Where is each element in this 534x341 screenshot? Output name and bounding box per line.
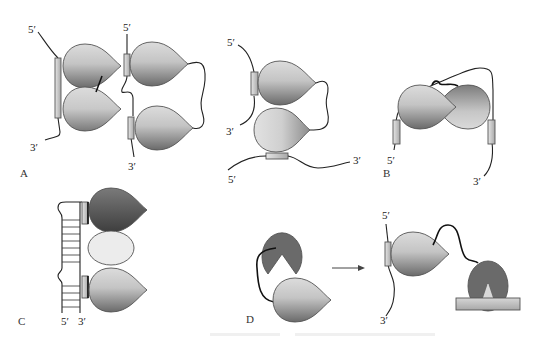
strand-5prime xyxy=(386,224,388,242)
panel-a-right-complex: 5′ 3′ 5′ 3′ xyxy=(226,36,361,185)
strand-connector xyxy=(122,76,133,116)
dna-bar xyxy=(55,58,61,118)
protein-domain-bottom xyxy=(135,106,193,150)
base-pair-rungs xyxy=(62,220,80,307)
panel-label-a: A xyxy=(20,167,28,179)
strand-5prime xyxy=(38,32,58,58)
label-3prime: 3′ xyxy=(128,160,136,172)
strand-3prime xyxy=(484,142,493,176)
protein-domain-top xyxy=(63,44,121,88)
dna-bar-bottom xyxy=(266,153,288,159)
panel-b: 5′ 3′ B xyxy=(383,68,495,187)
panel-a: 5′ 3′ 5′ 3′ xyxy=(20,21,361,185)
protein-domain-top xyxy=(258,61,316,105)
label-5prime: 5′ xyxy=(382,209,390,221)
diagram-canvas: 5′ 3′ 5′ 3′ xyxy=(0,0,534,341)
strand-5prime-side xyxy=(58,202,82,313)
panel-label-c: C xyxy=(18,315,25,327)
strand-5prime-bottom xyxy=(228,156,266,170)
panel-a-left-complex: 5′ 3′ xyxy=(28,23,121,153)
label-3prime: 3′ xyxy=(226,125,234,137)
protein-domain-bottom xyxy=(89,268,147,312)
panel-a-middle-complex: 5′ 3′ xyxy=(122,21,205,172)
panel-d: D 5′ 3′ xyxy=(246,209,520,326)
protein-domain-dark xyxy=(89,188,147,232)
label-5prime: 5′ xyxy=(61,315,69,327)
panel-d-active: 5′ 3′ xyxy=(380,209,520,326)
panel-label-b: B xyxy=(383,167,390,179)
panel-label-d: D xyxy=(246,313,254,325)
protein-domain-bottom xyxy=(63,87,121,131)
strand-5prime xyxy=(238,45,254,72)
dna-bar-left xyxy=(393,120,400,144)
dna-bar-top xyxy=(124,54,130,76)
linker-loop xyxy=(188,62,205,128)
dna-bar-bottom xyxy=(82,276,88,298)
dna-bar-bottom xyxy=(128,117,134,139)
panel-d-inactive: D xyxy=(246,233,331,325)
label-3prime: 3′ xyxy=(380,314,388,326)
label-5prime: 5′ xyxy=(227,36,235,48)
label-5prime: 5′ xyxy=(387,154,395,166)
label-3prime: 3′ xyxy=(78,315,86,327)
protein-domain-pale xyxy=(88,231,134,265)
strand-3prime xyxy=(240,96,254,125)
dna-bar xyxy=(251,72,258,95)
autoinhibitory-domain xyxy=(262,233,302,274)
substrate-surface xyxy=(456,298,520,310)
protein-domain-top xyxy=(130,42,188,86)
transition-arrow xyxy=(332,265,365,271)
strand-3prime xyxy=(386,265,394,316)
dna-bar-right xyxy=(488,120,495,144)
label-3prime: 3′ xyxy=(473,175,481,187)
protein-domain xyxy=(391,232,449,276)
dna-hairpin xyxy=(58,202,82,313)
protein-domain-bottom xyxy=(254,108,310,152)
figure-caption xyxy=(210,333,435,336)
label-5prime: 5′ xyxy=(28,23,36,35)
strand-3prime xyxy=(131,138,134,157)
label-5prime-bottom: 5′ xyxy=(228,173,236,185)
label-5prime: 5′ xyxy=(123,21,131,33)
dna-bar-top xyxy=(82,202,88,224)
protein-domain-left xyxy=(398,85,456,129)
dna-bar xyxy=(385,242,391,266)
label-3prime-bottom: 3′ xyxy=(353,154,361,166)
strand-3prime-bottom xyxy=(288,156,350,168)
linker-loop xyxy=(310,81,328,130)
panel-c: 5′ 3′ C xyxy=(18,188,147,327)
strand-3prime xyxy=(45,118,60,140)
strand-5prime xyxy=(394,144,395,150)
label-3prime: 3′ xyxy=(30,141,38,153)
protein-domain xyxy=(273,278,331,322)
